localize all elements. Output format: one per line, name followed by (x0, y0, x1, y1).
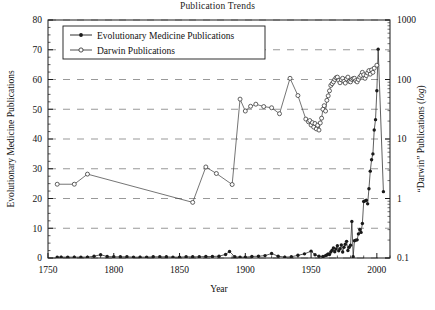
data-point-evolutionary-medicine (350, 220, 353, 223)
data-point-darwin (317, 128, 321, 132)
data-point-darwin (322, 104, 326, 108)
data-point-evolutionary-medicine (317, 255, 320, 258)
data-point-evolutionary-medicine (349, 244, 352, 247)
y-tick-label: 20 (33, 194, 43, 204)
y-tick-label: 30 (33, 164, 43, 174)
data-point-evolutionary-medicine (370, 158, 373, 161)
data-point-evolutionary-medicine (382, 190, 385, 193)
x-tick-label: 1950 (302, 265, 321, 275)
y2-label-prefix: “Darwin” Publications ( (416, 101, 427, 193)
data-point-darwin (254, 102, 258, 106)
data-point-evolutionary-medicine (365, 199, 368, 202)
data-point-darwin (249, 104, 253, 108)
data-point-evolutionary-medicine (270, 252, 273, 255)
data-point-evolutionary-medicine (359, 231, 362, 234)
data-point-darwin (72, 182, 76, 186)
data-point-evolutionary-medicine (313, 253, 316, 256)
open-circle-icon (79, 48, 83, 52)
data-point-darwin (325, 98, 329, 102)
data-point-evolutionary-medicine (367, 187, 370, 190)
data-point-evolutionary-medicine (338, 247, 341, 250)
publication-trends-chart: 0102030405060708017501800185019001950200… (0, 0, 435, 310)
data-point-darwin (326, 94, 330, 98)
data-point-evolutionary-medicine (303, 252, 306, 255)
data-point-darwin (278, 112, 282, 116)
y2-axis-label: “Darwin” Publications (log) (416, 85, 427, 192)
data-point-darwin (55, 182, 59, 186)
data-point-darwin (327, 89, 331, 93)
data-point-evolutionary-medicine (373, 128, 376, 131)
data-point-evolutionary-medicine (371, 152, 374, 155)
data-point-evolutionary-medicine (92, 255, 95, 258)
y2-tick-label: 0.1 (397, 253, 409, 263)
y-tick-label: 60 (33, 75, 43, 85)
x-tick-label: 2000 (367, 265, 386, 275)
data-point-darwin (346, 75, 350, 79)
data-point-evolutionary-medicine (344, 243, 347, 246)
data-point-evolutionary-medicine (340, 243, 343, 246)
x-tick-label: 1800 (104, 265, 123, 275)
y-tick-label: 0 (37, 253, 42, 263)
y-tick-label: 10 (33, 224, 43, 234)
y2-label-italic: log (416, 88, 426, 100)
data-point-evolutionary-medicine (366, 202, 369, 205)
data-point-darwin (85, 172, 89, 176)
y2-label-suffix: ) (416, 85, 427, 88)
data-point-darwin (343, 81, 347, 85)
data-point-evolutionary-medicine (336, 244, 339, 247)
data-point-darwin (204, 165, 208, 169)
data-point-evolutionary-medicine (376, 47, 379, 50)
x-tick-label: 1900 (236, 265, 255, 275)
data-point-evolutionary-medicine (342, 246, 345, 249)
data-point-darwin (296, 94, 300, 98)
y2-tick-label: 100 (397, 75, 412, 85)
legend-label-darwin: Darwin Publications (97, 46, 175, 56)
data-point-darwin (318, 121, 322, 125)
darwin-publications-points (55, 63, 379, 204)
legend-label-evolutionary-medicine: Evolutionary Medicine Publications (97, 31, 235, 41)
data-point-evolutionary-medicine (309, 249, 312, 252)
data-point-darwin (320, 116, 324, 120)
data-point-darwin (371, 70, 375, 74)
data-point-evolutionary-medicine (374, 118, 377, 121)
data-point-darwin (243, 109, 247, 113)
data-point-evolutionary-medicine (355, 238, 358, 241)
data-point-darwin (262, 105, 266, 109)
data-point-evolutionary-medicine (369, 169, 372, 172)
data-point-darwin (238, 97, 242, 101)
data-point-evolutionary-medicine (341, 250, 344, 253)
data-point-evolutionary-medicine (224, 253, 227, 256)
data-point-darwin (375, 63, 379, 67)
data-point-evolutionary-medicine (361, 222, 364, 225)
y2-tick-label: 1000 (397, 15, 416, 25)
y2-tick-label: 10 (397, 134, 407, 144)
data-point-evolutionary-medicine (346, 249, 349, 252)
x-axis-label: Year (210, 284, 228, 294)
data-point-darwin (230, 183, 234, 187)
data-point-evolutionary-medicine (358, 228, 361, 231)
filled-circle-icon (79, 33, 83, 37)
data-point-evolutionary-medicine (345, 240, 348, 243)
data-point-evolutionary-medicine (375, 89, 378, 92)
data-point-darwin (214, 172, 218, 176)
y-tick-label: 70 (33, 45, 43, 55)
y-axis-label: Evolutionary Medicine Publications (6, 70, 16, 208)
figure: Publication Trends 010203040506070801750… (0, 0, 435, 310)
data-point-evolutionary-medicine (276, 255, 279, 258)
data-point-darwin (288, 76, 292, 80)
data-point-evolutionary-medicine (263, 254, 266, 257)
y2-tick-label: 1 (397, 194, 402, 204)
y-tick-label: 80 (33, 15, 43, 25)
y-tick-label: 40 (33, 134, 43, 144)
data-point-darwin (324, 109, 328, 113)
data-point-darwin (270, 106, 274, 110)
legend[interactable]: Evolutionary Medicine Publications Darwi… (63, 26, 265, 59)
x-tick-label: 1850 (170, 265, 189, 275)
x-tick-label: 1750 (39, 265, 58, 275)
data-point-darwin (191, 200, 195, 204)
y-tick-label: 50 (33, 105, 43, 115)
data-point-evolutionary-medicine (228, 250, 231, 253)
